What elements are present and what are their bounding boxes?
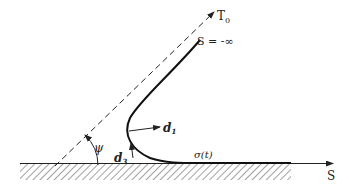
tape-curve xyxy=(127,40,291,163)
s-axis-label: S xyxy=(327,169,335,183)
contact-point-label: σ(t) xyxy=(194,149,213,160)
peeling-diagram: T0 S = -∞ d1 d3 ψ σ(t) S xyxy=(0,0,349,195)
tension-direction-line xyxy=(55,12,214,166)
d3-label: d3 xyxy=(114,151,127,166)
far-field-label: S = -∞ xyxy=(197,35,234,48)
tension-label: T0 xyxy=(217,9,230,25)
d1-label: d1 xyxy=(163,121,176,136)
d1-vector-arrow xyxy=(129,127,160,131)
substrate xyxy=(20,164,291,181)
angle-label: ψ xyxy=(94,141,104,155)
